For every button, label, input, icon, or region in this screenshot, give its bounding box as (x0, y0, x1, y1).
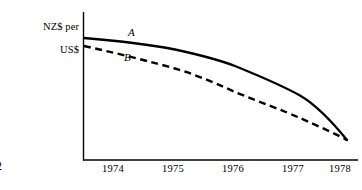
chart-figure: 2 NZ$ per US$ A B 1974 1975 1976 1977 19… (0, 0, 362, 190)
x-tick-label-1977: 1977 (273, 163, 313, 175)
x-tick-label-1976: 1976 (213, 163, 253, 175)
x-tick-label-1974: 1974 (93, 163, 133, 175)
x-tick-label-1978: 1978 (320, 163, 360, 175)
series-annotation-a: A (128, 26, 135, 38)
plot-area (0, 0, 362, 190)
x-tick-label-1975: 1975 (153, 163, 193, 175)
series-annotation-b: B (124, 51, 131, 63)
